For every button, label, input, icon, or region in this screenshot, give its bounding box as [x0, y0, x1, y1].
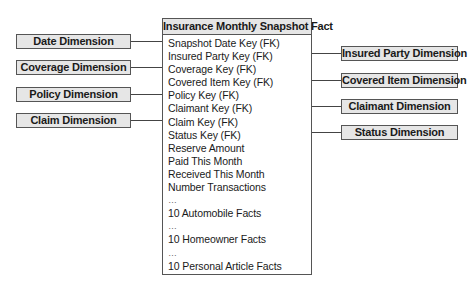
claim-dimension: Claim Dimension: [16, 113, 131, 128]
connector-insured-party: [312, 53, 341, 54]
fact-attribute-ellipsis: …: [168, 220, 311, 233]
connector-claim: [131, 120, 162, 121]
connector-policy: [131, 94, 162, 95]
fact-attribute: Claimant Key (FK): [168, 102, 311, 115]
claimant-dimension: Claimant Dimension: [341, 99, 458, 114]
fact-attribute: 10 Automobile Facts: [168, 207, 311, 220]
connector-claimant: [312, 106, 341, 107]
fact-attribute-list: Snapshot Date Key (FK) Insured Party Key…: [163, 35, 311, 273]
policy-dimension: Policy Dimension: [16, 87, 131, 102]
fact-attribute: Insured Party Key (FK): [168, 50, 311, 63]
connector-status: [312, 132, 341, 133]
fact-attribute: Reserve Amount: [168, 142, 311, 155]
connector-covered-item: [312, 80, 341, 81]
coverage-dimension: Coverage Dimension: [16, 60, 131, 75]
connector-date: [131, 41, 162, 42]
fact-attribute-ellipsis: …: [168, 247, 311, 260]
fact-table: Insurance Monthly Snapshot Fact Snapshot…: [162, 18, 312, 275]
fact-attribute: Claim Key (FK): [168, 116, 311, 129]
fact-attribute: Coverage Key (FK): [168, 63, 311, 76]
fact-attribute: Received This Month: [168, 168, 311, 181]
fact-attribute: Covered Item Key (FK): [168, 76, 311, 89]
fact-attribute: Snapshot Date Key (FK): [168, 37, 311, 50]
fact-attribute-ellipsis: …: [168, 194, 311, 207]
fact-attribute: Number Transactions: [168, 181, 311, 194]
fact-attribute: Policy Key (FK): [168, 89, 311, 102]
insured-party-dimension: Insured Party Dimension: [341, 46, 458, 61]
fact-attribute: Status Key (FK): [168, 129, 311, 142]
status-dimension: Status Dimension: [341, 125, 458, 140]
fact-table-title: Insurance Monthly Snapshot Fact: [163, 19, 311, 35]
covered-item-dimension: Covered Item Dimension: [341, 73, 458, 88]
fact-attribute: 10 Personal Article Facts: [168, 260, 311, 273]
date-dimension: Date Dimension: [16, 34, 131, 49]
fact-attribute: Paid This Month: [168, 155, 311, 168]
fact-attribute: 10 Homeowner Facts: [168, 233, 311, 246]
connector-coverage: [131, 67, 162, 68]
